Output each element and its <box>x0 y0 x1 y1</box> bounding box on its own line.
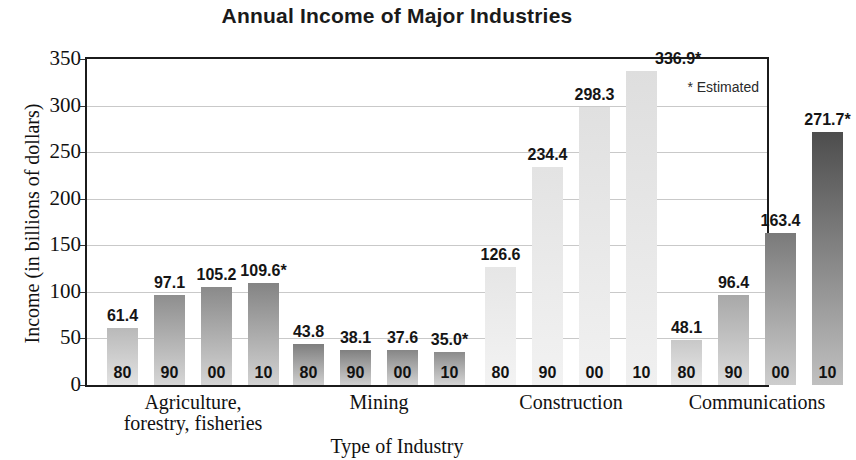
bar: 126.680 <box>485 267 516 385</box>
bar-year-label: 10 <box>434 364 465 382</box>
bar-year-label: 80 <box>107 364 138 382</box>
bar-year-label: 80 <box>671 364 702 382</box>
bar-value-label: 163.4 <box>760 212 800 230</box>
bar-value-label: 298.3 <box>574 86 614 104</box>
x-axis-group-label: Mining <box>269 392 489 413</box>
bar-year-label: 00 <box>201 364 232 382</box>
bar-year-label: 80 <box>293 364 324 382</box>
bar-year-label: 90 <box>718 364 749 382</box>
bar-value-label: 234.4 <box>527 146 567 164</box>
bar-year-label: 90 <box>532 364 563 382</box>
bar-year-label: 90 <box>340 364 371 382</box>
y-axis-tick-label: 150 <box>21 234 81 255</box>
bar-year-label: 80 <box>485 364 516 382</box>
gridline <box>87 245 767 246</box>
bar-value-label: 105.2 <box>196 266 236 284</box>
bar-value-label: 336.9* <box>655 50 701 68</box>
y-axis-tick-label: 200 <box>21 188 81 209</box>
y-axis-tick-label: 250 <box>21 141 81 162</box>
bar-value-label: 109.6* <box>240 262 286 280</box>
bar: 43.880 <box>293 344 324 385</box>
bar-year-label: 10 <box>812 364 843 382</box>
bar-value-label: 96.4 <box>718 274 749 292</box>
bar: 271.7*10 <box>812 132 843 385</box>
bar-year-label: 10 <box>248 364 279 382</box>
bar-value-label: 97.1 <box>154 274 185 292</box>
bar-year-label: 00 <box>387 364 418 382</box>
bar-value-label: 48.1 <box>671 319 702 337</box>
bar-value-label: 126.6 <box>480 246 520 264</box>
bar-year-label: 00 <box>579 364 610 382</box>
bar: 37.600 <box>387 350 418 385</box>
bar: 61.480 <box>107 328 138 385</box>
y-axis-tick-label: 0 <box>21 374 81 395</box>
bar: 336.9*10 <box>626 71 657 385</box>
bar: 234.490 <box>532 167 563 385</box>
bar: 35.0*10 <box>434 352 465 385</box>
bar-value-label: 35.0* <box>431 331 468 349</box>
gridline <box>87 152 767 153</box>
estimated-note: * Estimated <box>687 79 759 95</box>
bar-value-label: 38.1 <box>340 329 371 347</box>
gridline <box>87 292 767 293</box>
bar: 48.180 <box>671 340 702 385</box>
bar: 96.490 <box>718 295 749 385</box>
bar: 97.190 <box>154 295 185 385</box>
chart-title: Annual Income of Major Industries <box>0 4 794 28</box>
bar-value-label: 43.8 <box>293 323 324 341</box>
bar: 298.300 <box>579 107 610 385</box>
bar-value-label: 271.7* <box>804 111 850 129</box>
bar-year-label: 10 <box>626 364 657 382</box>
group-label-line: Communications <box>647 392 856 413</box>
bar-value-label: 61.4 <box>107 307 138 325</box>
bar: 109.6*10 <box>248 283 279 385</box>
bar: 105.200 <box>201 287 232 385</box>
gridline <box>87 338 767 339</box>
bar: 163.400 <box>765 233 796 385</box>
y-axis-tick-label: 50 <box>21 327 81 348</box>
y-axis-tick-label: 100 <box>21 281 81 302</box>
group-label-line: forestry, fisheries <box>83 413 303 434</box>
bar-year-label: 90 <box>154 364 185 382</box>
x-axis-title: Type of Industry <box>0 435 794 458</box>
y-axis-tick-label: 300 <box>21 95 81 116</box>
bar: 38.190 <box>340 350 371 385</box>
y-axis-tick-label: 350 <box>21 48 81 69</box>
plot-area: 61.48097.190105.200109.6*1043.88038.1903… <box>85 57 769 387</box>
group-label-line: Mining <box>269 392 489 413</box>
x-axis-group-label: Communications <box>647 392 856 413</box>
gridline <box>87 106 767 107</box>
bar-value-label: 37.6 <box>387 329 418 347</box>
gridline <box>87 199 767 200</box>
plot-inner: 61.48097.190105.200109.6*1043.88038.1903… <box>87 59 767 385</box>
bar-year-label: 00 <box>765 364 796 382</box>
